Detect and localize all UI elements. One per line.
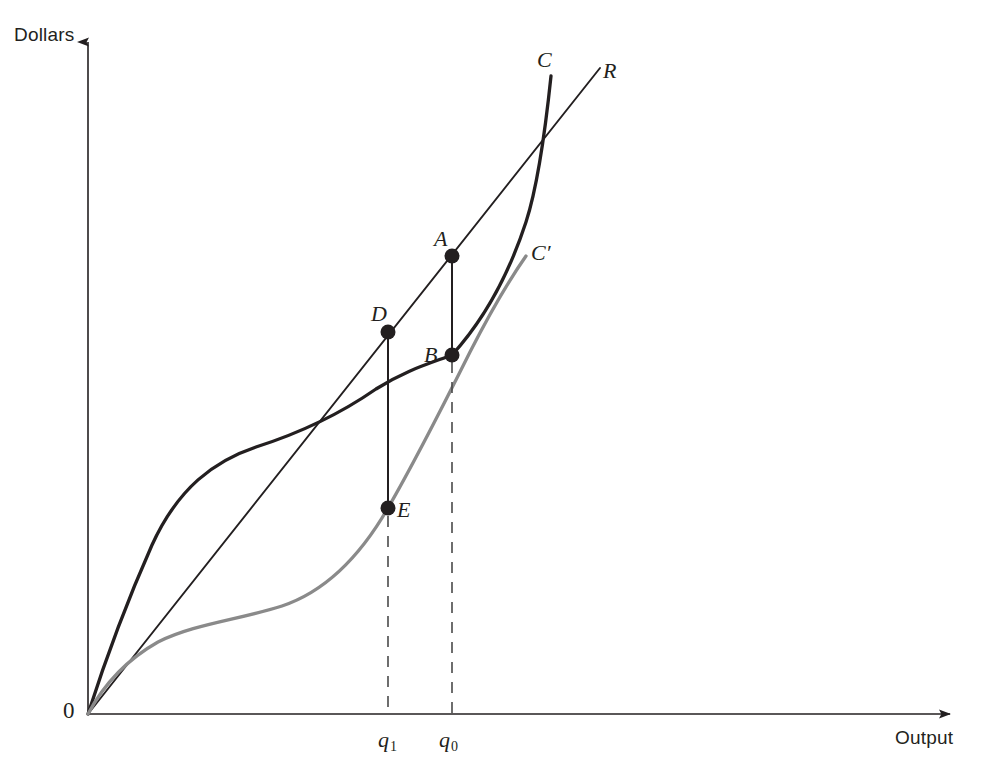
point-A-label: A — [434, 226, 447, 252]
x-tick-q0-subscript: 0 — [451, 739, 458, 754]
point-B-marker — [445, 348, 460, 363]
cost-prime-curve-label: C′ — [531, 240, 551, 266]
revenue-line-label: R — [603, 58, 616, 84]
point-E-marker — [381, 501, 396, 516]
x-tick-label-q1: q1 — [378, 727, 396, 753]
x-tick-q1-base: q — [378, 727, 389, 752]
cost-curve-label: C — [537, 47, 552, 73]
cost-curve-C — [88, 76, 551, 714]
x-tick-q0-base: q — [439, 727, 450, 752]
point-B-label: B — [424, 342, 437, 368]
plot-canvas — [0, 0, 988, 764]
point-E-label: E — [397, 497, 410, 523]
y-axis-label: Dollars — [14, 24, 75, 46]
cost-curve-C-prime — [88, 256, 526, 714]
origin-label: 0 — [63, 698, 75, 724]
revenue-line-R — [88, 68, 600, 714]
x-tick-label-q0: q0 — [439, 727, 457, 753]
x-tick-q1-subscript: 1 — [390, 739, 397, 754]
x-axis-label: Output — [895, 727, 953, 749]
economics-cost-revenue-figure: Dollars Output 0 C R C′ A B D E q1 q0 — [0, 0, 988, 764]
point-D-label: D — [371, 301, 387, 327]
